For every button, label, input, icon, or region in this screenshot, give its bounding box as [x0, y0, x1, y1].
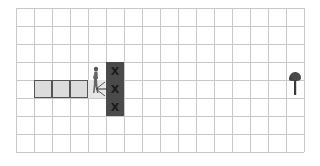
- action-arrow-icon: [94, 82, 108, 96]
- trail-cell: [70, 80, 88, 98]
- wall-cell: X: [106, 98, 124, 116]
- grid-world: X X X: [16, 8, 304, 152]
- blocked-x-icon: X: [111, 83, 119, 96]
- grid-line: [16, 44, 304, 45]
- tree-icon: [288, 71, 302, 97]
- grid-line: [16, 152, 304, 153]
- grid-line: [16, 134, 304, 135]
- trail-cell: [34, 80, 52, 98]
- grid-line: [16, 116, 304, 117]
- grid-line: [16, 98, 304, 99]
- grid-line: [16, 8, 304, 9]
- game-board: X X X: [0, 0, 320, 166]
- wall-cell: X: [106, 62, 124, 80]
- grid-line: [16, 62, 304, 63]
- grid-line: [304, 8, 305, 152]
- wall-cell: X: [106, 80, 124, 98]
- blocked-x-icon: X: [111, 101, 119, 114]
- grid-line: [16, 26, 304, 27]
- trail-cell: [52, 80, 70, 98]
- blocked-x-icon: X: [111, 65, 119, 78]
